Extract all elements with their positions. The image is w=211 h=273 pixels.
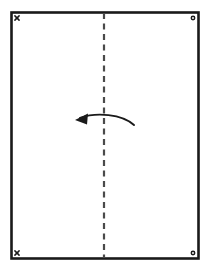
- fold-diagram-canvas: [0, 0, 211, 273]
- fold-diagram-svg: [0, 0, 211, 273]
